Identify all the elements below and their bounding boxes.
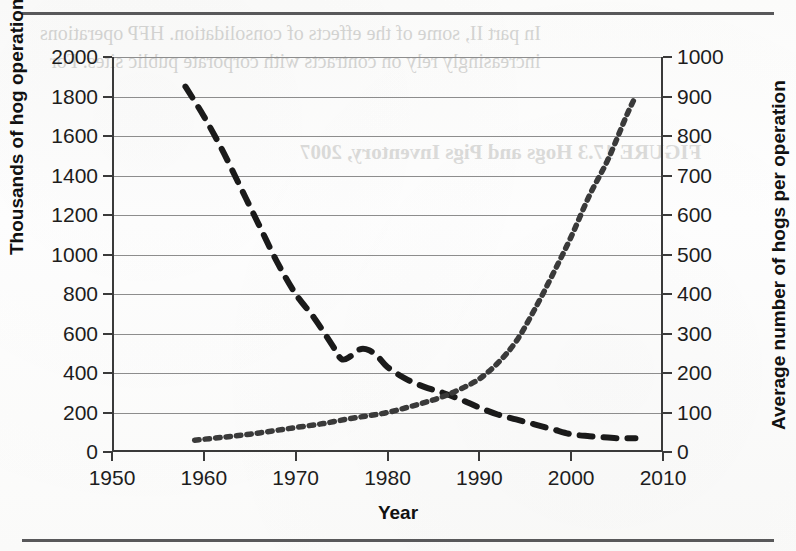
y-axis-left-title: Thousands of hog operations [6, 0, 28, 255]
y-axis-right-tick-label: 300 [677, 322, 712, 346]
y-axis-right-tick-label: 1000 [677, 45, 724, 69]
y-axis-left-tick-label: 1600 [51, 124, 98, 148]
y-axis-left-tick [103, 412, 112, 414]
y-axis-left-tick [103, 254, 112, 256]
x-axis-tick-label: 1990 [456, 466, 503, 490]
y-axis-right-tick-label: 200 [677, 361, 712, 385]
y-axis-left-tick [103, 372, 112, 374]
y-axis-left-tick-label: 1000 [51, 243, 98, 267]
chart-plot-area: 0200400600800100012001400160018002000010… [112, 57, 663, 452]
y-axis-right-tick-label: 900 [677, 85, 712, 109]
y-axis-left-tick [103, 135, 112, 137]
x-axis-tick [203, 452, 205, 461]
x-axis-tick-label: 2010 [640, 466, 687, 490]
y-axis-right-tick-label: 0 [677, 440, 689, 464]
y-axis-right-tick [663, 135, 672, 137]
x-axis-tick-label: 1960 [180, 466, 227, 490]
y-axis-right-tick [663, 214, 672, 216]
y-axis-left-tick [103, 214, 112, 216]
x-axis-tick [570, 452, 572, 461]
y-axis-right-tick [663, 333, 672, 335]
y-axis-left-tick-label: 800 [63, 282, 98, 306]
y-axis-left-tick [103, 333, 112, 335]
y-axis-right-tick-label: 600 [677, 203, 712, 227]
x-axis-tick-label: 1970 [272, 466, 319, 490]
figure-rule-bottom [22, 539, 774, 542]
x-axis-tick [387, 452, 389, 461]
y-axis-right-tick-label: 700 [677, 164, 712, 188]
y-axis-left-tick-label: 2000 [51, 45, 98, 69]
y-axis-right-tick [663, 175, 672, 177]
y-axis-left-tick-label: 400 [63, 361, 98, 385]
y-axis-right-tick-label: 400 [677, 282, 712, 306]
series-layer [112, 57, 663, 452]
x-axis-tick [478, 452, 480, 461]
y-axis-right-tick [663, 412, 672, 414]
y-axis-left-tick [103, 175, 112, 177]
y-axis-right-tick-label: 100 [677, 401, 712, 425]
y-axis-left-tick-label: 1400 [51, 164, 98, 188]
y-axis-left-tick-label: 200 [63, 401, 98, 425]
y-axis-right-title: Average number of hogs per operation [768, 80, 790, 430]
x-axis-tick [111, 452, 113, 461]
y-axis-right-tick [663, 254, 672, 256]
y-axis-left-tick-label: 600 [63, 322, 98, 346]
series-hog-operations-line [185, 87, 635, 439]
y-axis-right-tick [663, 56, 672, 58]
y-axis-left-tick [103, 96, 112, 98]
y-axis-left-tick-label: 1800 [51, 85, 98, 109]
x-axis-tick-label: 2000 [548, 466, 595, 490]
y-axis-right-tick-label: 500 [677, 243, 712, 267]
y-axis-right-tick [663, 372, 672, 374]
y-axis-right-tick-label: 800 [677, 124, 712, 148]
x-axis-title: Year [0, 502, 796, 524]
y-axis-left-tick-label: 0 [86, 440, 98, 464]
y-axis-left-tick [103, 293, 112, 295]
y-axis-left-tick [103, 56, 112, 58]
x-axis-tick [662, 452, 664, 461]
x-axis-tick [295, 452, 297, 461]
y-axis-right-tick [663, 293, 672, 295]
x-axis-tick-label: 1980 [364, 466, 411, 490]
y-axis-left-tick-label: 1200 [51, 203, 98, 227]
y-axis-right-tick [663, 451, 672, 453]
x-axis-tick-label: 1950 [89, 466, 136, 490]
y-axis-right-tick [663, 96, 672, 98]
series-hogs-per-operation-line [195, 97, 636, 441]
figure-rule-top [22, 12, 774, 15]
